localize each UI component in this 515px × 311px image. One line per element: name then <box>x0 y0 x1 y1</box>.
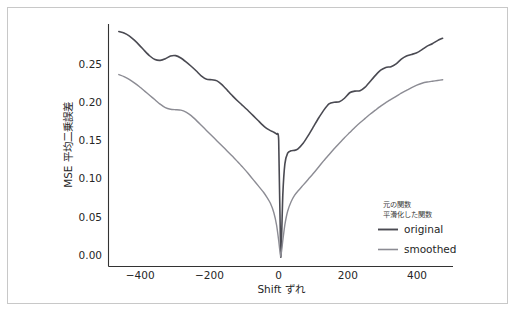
y-axis-label: MSE 平均二乗誤差 <box>62 102 74 188</box>
y-tick-label: 0.10 <box>79 172 102 184</box>
y-tick-label: 0.15 <box>79 134 102 146</box>
y-tick-label: 0.20 <box>79 96 102 108</box>
x-axis-label: Shift ずれ <box>257 283 305 295</box>
x-tick-label: 200 <box>338 269 358 281</box>
legend-entry-original[interactable]: original <box>378 223 443 235</box>
x-tick-label: −200 <box>195 269 224 281</box>
screenshot-root: 0.00 0.05 0.10 0.15 0.20 0.25 −400 −200 … <box>0 0 515 311</box>
series-line-original <box>119 32 443 258</box>
y-tick-labels: 0.00 0.05 0.10 0.15 0.20 0.25 <box>79 58 102 262</box>
x-tick-label: 400 <box>407 269 427 281</box>
y-tick-label: 0.05 <box>79 211 102 223</box>
legend-entry-smoothed[interactable]: smoothed <box>378 243 456 255</box>
y-tick-label: 0.00 <box>79 249 102 261</box>
chart-legend: 元の関数 平滑化した関数 original smoothed <box>378 200 456 255</box>
y-tick-label: 0.25 <box>79 58 102 70</box>
legend-label-original: original <box>404 223 443 235</box>
legend-title-line-1: 元の関数 <box>383 200 411 209</box>
chart-figure: 0.00 0.05 0.10 0.15 0.20 0.25 −400 −200 … <box>0 0 515 311</box>
x-tick-labels: −400 −200 0 200 400 <box>126 269 427 281</box>
mse-shift-line-chart: 0.00 0.05 0.10 0.15 0.20 0.25 −400 −200 … <box>0 0 515 311</box>
data-series-group <box>119 32 443 258</box>
x-tick-label: 0 <box>275 269 282 281</box>
legend-label-smoothed: smoothed <box>404 243 456 255</box>
legend-title-line-2: 平滑化した関数 <box>383 210 432 219</box>
x-tick-label: −400 <box>126 269 155 281</box>
